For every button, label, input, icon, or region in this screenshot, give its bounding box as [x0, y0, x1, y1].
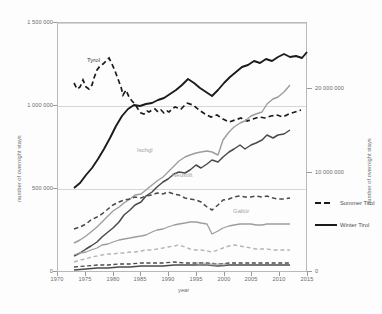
xtick-1980: 1980 — [98, 276, 128, 282]
xtick-mark-2000 — [224, 272, 225, 276]
ytick-left-0: 0 — [5, 268, 53, 274]
series-schonberg — [74, 265, 290, 270]
xtick-2015: 2015 — [292, 276, 322, 282]
xtick-1970: 1970 — [42, 276, 72, 282]
annotation-ischgl: Ischgl — [137, 147, 153, 153]
chart-figure: Tyrol Ischgl Neustift Galtür Schönberg 1… — [0, 0, 382, 314]
series-neustift — [74, 130, 290, 256]
xtick-1995: 1995 — [181, 276, 211, 282]
xtick-mark-1975 — [85, 272, 86, 276]
ytick-mark-left-1000000 — [53, 105, 57, 106]
xtick-1975: 1975 — [70, 276, 100, 282]
xtick-mark-2010 — [279, 272, 280, 276]
ytick-right-10000000: 10 000 000 — [315, 169, 344, 175]
xtick-mark-1990 — [168, 272, 169, 276]
xtick-1990: 1990 — [153, 276, 183, 282]
xtick-2000: 2000 — [209, 276, 239, 282]
legend-label-winter-tirol: Winter Tirol — [340, 222, 369, 228]
ytick-left-500000: 500 000 — [5, 185, 53, 191]
series-summer-tirol — [74, 58, 187, 114]
legend-label-summer-tirol: Summer Tirol — [340, 200, 374, 206]
ytick-left-1500000: 1 500 000 — [5, 19, 53, 25]
legend-swatch-dashed — [315, 199, 337, 207]
x-axis-title: year — [178, 287, 189, 293]
xtick-2010: 2010 — [264, 276, 294, 282]
xtick-mark-2015 — [307, 272, 308, 276]
y-axis-title-right: number of overnight stays — [366, 138, 372, 205]
series-winter-tirol — [74, 52, 307, 188]
ytick-mark-right-10000000 — [307, 172, 312, 173]
xtick-mark-1980 — [113, 272, 114, 276]
legend-item-winter-tirol[interactable]: Winter Tirol — [315, 218, 374, 232]
annotation-neustift: Neustift — [172, 172, 192, 178]
xtick-mark-1985 — [140, 272, 141, 276]
annotation-tyrol: Tyrol — [87, 57, 100, 63]
xtick-mark-1970 — [57, 272, 58, 276]
series-ischgl-summer — [74, 245, 290, 262]
series-summer-tirol-right — [187, 103, 301, 122]
legend: Summer Tirol Winter Tirol — [315, 196, 374, 232]
ytick-mark-right-20000000 — [307, 88, 312, 89]
xtick-2005: 2005 — [236, 276, 266, 282]
y-axis-title-left: number of overnight stays — [16, 135, 22, 202]
ytick-mark-left-500000 — [53, 188, 57, 189]
ytick-right-20000000: 20 000 000 — [315, 85, 344, 91]
annotation-galtur: Galtür — [233, 208, 249, 214]
legend-item-summer-tirol[interactable]: Summer Tirol — [315, 196, 374, 210]
series-galtur — [74, 222, 290, 255]
annotation-schonberg: Schönberg — [196, 261, 225, 267]
xtick-1985: 1985 — [125, 276, 155, 282]
ytick-left-1000000: 1 000 000 — [5, 102, 53, 108]
ytick-mark-left-1500000 — [53, 22, 57, 23]
legend-swatch-solid — [315, 221, 337, 229]
xtick-mark-2005 — [251, 272, 252, 276]
ytick-right-0: 0 — [315, 268, 318, 274]
xtick-mark-1995 — [196, 272, 197, 276]
